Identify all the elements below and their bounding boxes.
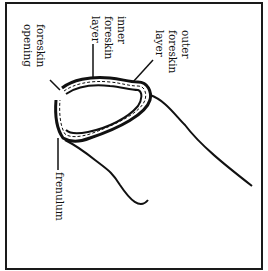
label-outer-foreskin-layer: outer foreskin layer bbox=[153, 30, 192, 73]
pointer-opening bbox=[50, 80, 60, 90]
glans-contour bbox=[66, 85, 141, 133]
label-foreskin-opening: foreskin opening bbox=[21, 24, 47, 67]
label-inner-foreskin-layer: inner foreskin layer bbox=[89, 16, 128, 59]
pointer-outer-layer bbox=[133, 60, 153, 82]
shaft-lower-line bbox=[65, 140, 148, 204]
label-frenulum: frenulum bbox=[53, 172, 66, 221]
